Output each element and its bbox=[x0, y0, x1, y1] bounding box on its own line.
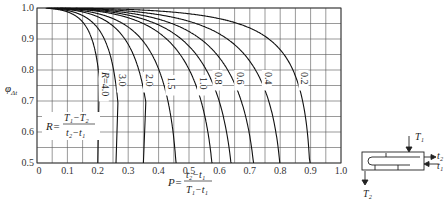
correction-factor-chart: R=4.03.02.01.51.00.80.60.40.2 00.10.20.3… bbox=[0, 0, 445, 206]
x-tick-label: 0.4 bbox=[152, 165, 165, 176]
label-t1: t₁ bbox=[437, 160, 443, 171]
x-tick-label: 0.1 bbox=[61, 165, 74, 176]
curve-label: 1.0 bbox=[198, 77, 209, 90]
y-axis-ticks: 0.50.60.70.80.91.0 bbox=[22, 2, 35, 168]
curve-label: 3.0 bbox=[117, 74, 128, 87]
y-tick-label: 0.9 bbox=[22, 33, 35, 44]
heat-exchanger-schematic bbox=[362, 136, 438, 185]
y-tick-label: 0.5 bbox=[22, 157, 35, 168]
curve-label: 0.4 bbox=[263, 72, 274, 85]
x-tick-label: 0.2 bbox=[92, 165, 105, 176]
svg-text:P=: P= bbox=[167, 176, 182, 188]
y-tick-label: 0.8 bbox=[22, 64, 35, 75]
x-tick-label: 0.6 bbox=[213, 165, 226, 176]
y-tick-label: 0.6 bbox=[22, 126, 35, 137]
label-T2: T₂ bbox=[363, 188, 373, 199]
curve-label: 0.2 bbox=[299, 72, 310, 85]
x-tick-label: 1.0 bbox=[335, 165, 348, 176]
svg-text:T₁−t₁: T₁−t₁ bbox=[186, 184, 208, 195]
curve-label: 0.8 bbox=[213, 72, 224, 85]
curve-label: 1.5 bbox=[166, 77, 177, 90]
y-axis-title: φΔt bbox=[5, 82, 18, 97]
x-tick-label: 0.7 bbox=[244, 165, 257, 176]
svg-text:T₁−T₂: T₁−T₂ bbox=[64, 112, 89, 123]
curve-label: 0.6 bbox=[235, 72, 246, 85]
x-tick-label: 0.8 bbox=[274, 165, 287, 176]
svg-text:t₂−t₁: t₂−t₁ bbox=[186, 169, 205, 180]
svg-text:R=: R= bbox=[45, 120, 60, 132]
curve-label: R=4.0 bbox=[100, 71, 111, 96]
svg-text:t₂−t₁: t₂−t₁ bbox=[66, 127, 85, 138]
y-tick-label: 1.0 bbox=[22, 2, 35, 13]
x-tick-label: 0.3 bbox=[122, 165, 135, 176]
r-formula: R= T₁−T₂ t₂−t₁ bbox=[42, 112, 100, 140]
curve-label: 2.0 bbox=[144, 74, 155, 87]
x-tick-label: 0 bbox=[37, 165, 42, 176]
label-T1: T₁ bbox=[415, 131, 424, 142]
x-axis-formula: P= t₂−t₁ T₁−t₁ bbox=[167, 169, 212, 195]
x-tick-label: 0.9 bbox=[304, 165, 317, 176]
y-tick-label: 0.7 bbox=[22, 95, 35, 106]
